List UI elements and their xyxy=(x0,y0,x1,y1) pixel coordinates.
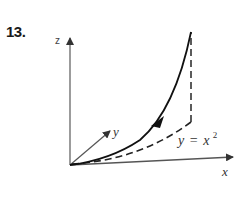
z-axis-label: z xyxy=(55,35,60,46)
curve-label-exponent: 2 xyxy=(213,130,218,140)
x-axis-label: x xyxy=(221,164,228,179)
y-axis-label: y xyxy=(111,124,119,139)
y-axis xyxy=(70,131,110,165)
curve-label-rhs: x xyxy=(202,133,210,148)
space-curve xyxy=(70,32,191,165)
space-curve-diagram: z x y y = x 2 xyxy=(0,0,249,216)
projection-dashed-curve xyxy=(72,122,191,164)
curve-label-lhs: y xyxy=(176,133,185,148)
curve-label: y = x 2 xyxy=(176,130,217,148)
curve-label-eq: = xyxy=(190,133,198,148)
curve-direction-arrow-icon xyxy=(151,116,164,128)
